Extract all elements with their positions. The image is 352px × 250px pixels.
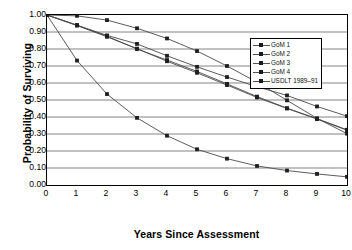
legend-item-3: GoM 3 [253,59,318,68]
legend-marker-icon [253,77,270,86]
legend-item-label: USDLT 1989–91 [270,78,318,84]
legend-item-4: GoM 4 [253,68,318,77]
x-axis-tick-label: 10 [336,189,352,198]
legend-item-1: GoM 1 [253,41,318,50]
legend-item-5: USDLT 1989–91 [253,77,318,86]
x-axis-tick-label: 8 [276,189,296,198]
legend-item-label: GoM 2 [270,51,290,57]
legend-item-label: GoM 1 [270,42,290,48]
legend-marker-icon [253,68,270,77]
x-axis-tick-label: 3 [126,189,146,198]
legend-marker-icon [253,50,270,59]
chart-legend: GoM 1GoM 2GoM 3GoM 4USDLT 1989–91 [250,38,322,89]
x-axis-tick-label: 4 [156,189,176,198]
x-axis-tick-label: 6 [216,189,236,198]
legend-item-2: GoM 2 [253,50,318,59]
x-axis-tick-label: 7 [246,189,266,198]
legend-item-label: GoM 3 [270,60,290,66]
legend-marker-icon [253,59,270,68]
legend-item-label: GoM 4 [270,69,290,75]
survival-curve-figure: Probability of Surviving 1.000.900.800.7… [0,0,352,250]
x-axis-tick-label: 0 [36,189,56,198]
x-axis-tick-label: 5 [186,189,206,198]
legend-marker-icon [253,41,270,50]
x-axis-title: Years Since Assessment [45,228,348,240]
x-axis-tick-label: 2 [96,189,116,198]
x-axis-tick-label: 1 [66,189,86,198]
x-axis-tick-label: 9 [306,189,326,198]
